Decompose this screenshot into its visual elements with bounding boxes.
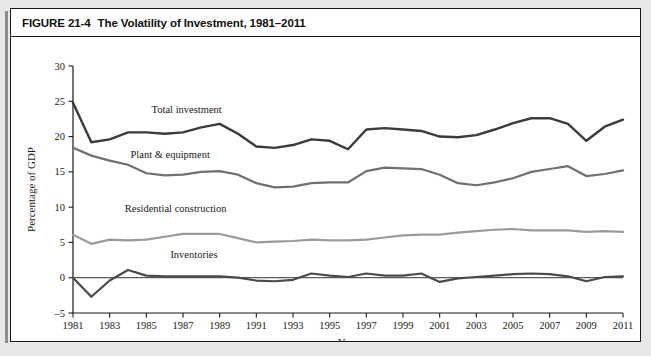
x-tick-label: 1989 xyxy=(209,320,230,331)
series-label-plant-equipment: Plant & equipment xyxy=(131,149,210,160)
x-tick-label: 1981 xyxy=(63,320,84,331)
x-tick-label: 1991 xyxy=(246,320,267,331)
figure-header: FIGURE 21-4 The Volatility of Investment… xyxy=(11,9,640,37)
series-label-residential-construction: Residential construction xyxy=(125,203,228,214)
figure-number: FIGURE 21-4 xyxy=(22,17,91,29)
x-tick-label: 2001 xyxy=(429,320,450,331)
y-axis-tick-labels: –5051015202530 xyxy=(54,61,66,319)
figure-title: The Volatility of Investment, 1981–2011 xyxy=(98,17,306,29)
x-axis-title: Year xyxy=(338,336,359,341)
x-tick-label: 2005 xyxy=(503,320,524,331)
y-tick-label: 30 xyxy=(55,61,66,72)
y-axis-title: Percentage of GDP xyxy=(25,147,37,232)
series-label-total-investment: Total investment xyxy=(152,104,222,115)
figure-card: FIGURE 21-4 The Volatility of Investment… xyxy=(10,8,641,342)
investment-volatility-line-chart: –5051015202530 1981198319851987198919911… xyxy=(11,37,640,341)
y-tick-label: 20 xyxy=(55,131,66,142)
x-tick-label: 1983 xyxy=(99,320,120,331)
x-tick-label: 2009 xyxy=(576,320,597,331)
x-tick-label: 1987 xyxy=(173,320,194,331)
x-tick-label: 2007 xyxy=(539,320,560,331)
series-label-inventories: Inventories xyxy=(170,249,217,260)
x-tick-label: 1997 xyxy=(356,320,377,331)
x-tick-label: 1995 xyxy=(319,320,340,331)
x-axis-tick-labels: 1981198319851987198919911993199519971999… xyxy=(63,320,634,331)
x-tick-label: 1999 xyxy=(393,320,414,331)
series-line-inventories xyxy=(73,270,623,297)
y-tick-label: 5 xyxy=(60,237,65,248)
series-line-residential-construction xyxy=(73,229,623,244)
y-tick-label: –5 xyxy=(54,308,66,319)
x-tick-label: 1985 xyxy=(136,320,157,331)
x-tick-label: 1993 xyxy=(283,320,304,331)
y-tick-label: 10 xyxy=(55,202,66,213)
chart-plot-area: –5051015202530 1981198319851987198919911… xyxy=(11,37,640,341)
axis-titles: YearPercentage of GDP xyxy=(25,147,358,341)
figure-root: FIGURE 21-4 The Volatility of Investment… xyxy=(0,0,651,356)
x-tick-label: 2003 xyxy=(466,320,487,331)
y-tick-label: 25 xyxy=(55,96,66,107)
y-tick-label: 15 xyxy=(55,166,66,177)
series-inline-labels: Total investmentPlant & equipmentResiden… xyxy=(125,104,228,260)
chart-series-group xyxy=(73,103,623,297)
y-tick-label: 0 xyxy=(60,272,65,283)
x-tick-label: 2011 xyxy=(613,320,634,331)
